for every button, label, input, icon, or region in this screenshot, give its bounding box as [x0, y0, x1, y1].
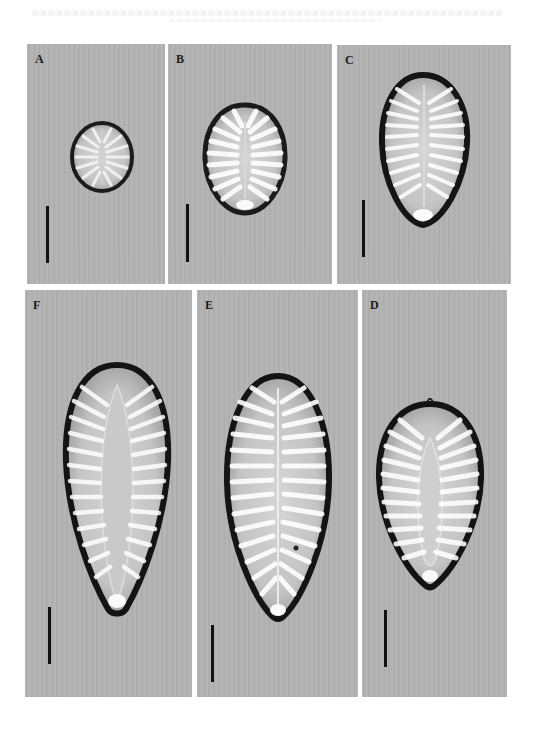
- panel-d: D: [362, 290, 507, 697]
- scale-bar-f: [48, 607, 51, 664]
- scale-bar-b: [186, 204, 189, 262]
- panel-label-c: C: [345, 53, 354, 68]
- page-bleed-through-text: [32, 10, 502, 16]
- page-bleed-through-text-line2: [170, 19, 380, 22]
- panel-f: F: [25, 290, 192, 697]
- panel-label-d: D: [370, 298, 379, 313]
- panel-label-f: F: [33, 298, 40, 313]
- panel-e: E: [197, 290, 358, 697]
- diatom-valve-f: [60, 361, 174, 619]
- scale-bar-c: [362, 200, 365, 257]
- panel-b: B: [168, 44, 332, 284]
- scale-bar-e: [211, 625, 214, 682]
- scale-bar-a: [46, 206, 49, 263]
- panel-label-b: B: [176, 52, 184, 67]
- panel-c: C: [337, 45, 511, 284]
- diatom-valve-d: [374, 398, 486, 592]
- diatom-valve-e: [222, 372, 334, 624]
- panel-label-a: A: [35, 52, 44, 67]
- panel-label-e: E: [205, 298, 213, 313]
- diatom-valve-c: [377, 71, 473, 229]
- diatom-valve-b: [201, 101, 289, 217]
- scale-bar-d: [384, 610, 387, 667]
- panel-a: A: [27, 44, 165, 284]
- diatom-valve-a: [69, 120, 135, 194]
